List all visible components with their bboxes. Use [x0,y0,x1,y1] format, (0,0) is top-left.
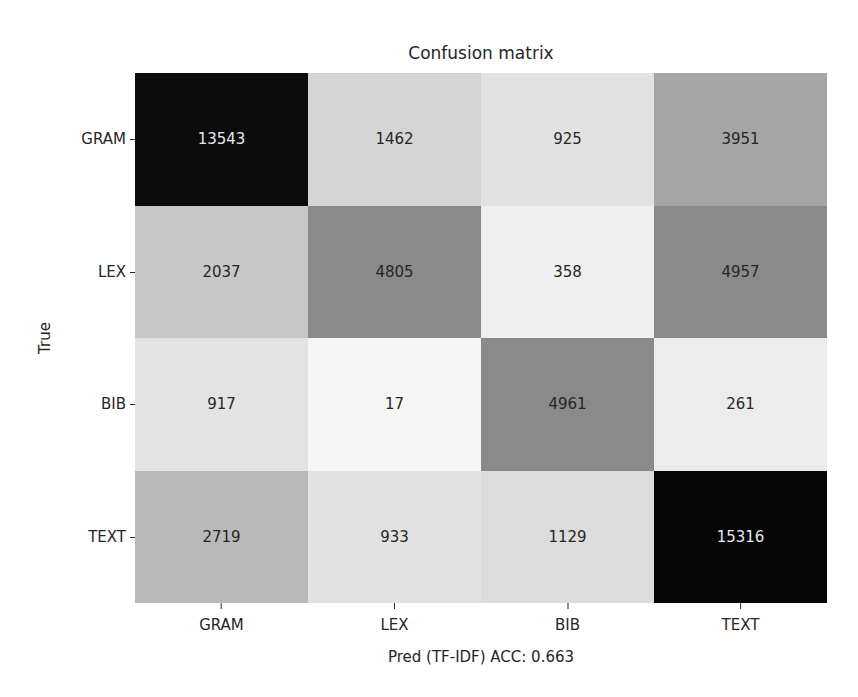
heatmap-cell: 2719 [135,471,308,604]
heatmap-cell: 933 [308,471,481,604]
x-tick-label: BIB [555,616,580,634]
heatmap-cell: 358 [481,206,654,339]
y-tick-bib: BIB [101,395,135,413]
x-tick-label: TEXT [722,616,760,634]
x-tick-gram: GRAM [199,603,244,634]
y-tick-lex: LEX [98,263,135,281]
y-tick-label: GRAM [81,130,126,148]
x-tick-lex: LEX [380,603,408,634]
confusion-matrix-heatmap: 13543 1462 925 3951 2037 4805 358 4957 9… [135,73,827,603]
chart-title: Confusion matrix [135,43,827,63]
y-tick-label: BIB [101,395,126,413]
y-tick-gram: GRAM [81,130,135,148]
tick-mark [740,603,741,609]
y-axis-label: True [36,322,54,354]
heatmap-cell: 4961 [481,338,654,471]
heatmap-cell: 261 [654,338,827,471]
x-axis-label: Pred (TF-IDF) ACC: 0.663 [135,648,827,666]
y-tick-label: LEX [98,263,126,281]
y-tick-text: TEXT [88,528,135,546]
y-tick-label: TEXT [88,528,126,546]
tick-mark [394,603,395,609]
heatmap-cell: 925 [481,73,654,206]
tick-mark [221,603,222,609]
x-tick-text: TEXT [722,603,760,634]
heatmap-cell: 13543 [135,73,308,206]
heatmap-cell: 917 [135,338,308,471]
x-tick-label: GRAM [199,616,244,634]
x-tick-bib: BIB [555,603,580,634]
heatmap-cell: 3951 [654,73,827,206]
heatmap-cell: 15316 [654,471,827,604]
tick-mark [567,603,568,609]
heatmap-cell: 1462 [308,73,481,206]
x-tick-label: LEX [380,616,408,634]
heatmap-cell: 2037 [135,206,308,339]
heatmap-cell: 1129 [481,471,654,604]
heatmap-cell: 4805 [308,206,481,339]
heatmap-cell: 17 [308,338,481,471]
heatmap-cell: 4957 [654,206,827,339]
